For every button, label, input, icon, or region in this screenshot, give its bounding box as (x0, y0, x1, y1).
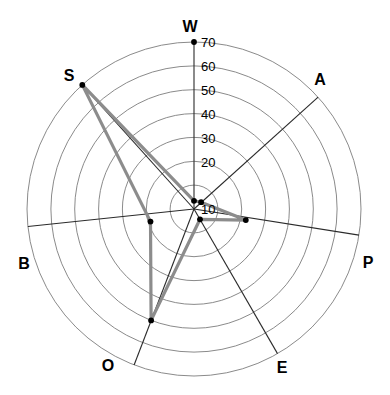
data-point-s (79, 82, 85, 88)
axis-spoke-e (194, 209, 278, 354)
axis-label-w: W (182, 18, 198, 35)
axis-spoke-p (194, 209, 359, 235)
data-point-w (191, 198, 197, 204)
tick-marker-70 (191, 39, 197, 45)
axis-label-p: P (363, 254, 374, 271)
axis-label-o: O (102, 357, 114, 374)
axis-label-s: S (64, 67, 75, 84)
tick-label-60: 60 (201, 59, 215, 74)
tick-label-30: 30 (201, 131, 215, 146)
axis-spoke-o (134, 209, 194, 365)
tick-label-70: 70 (201, 35, 215, 50)
tick-label-10: 10 (201, 202, 215, 217)
series-polygon-1 (82, 85, 246, 321)
tick-label-20: 20 (201, 155, 215, 170)
axis-spoke-b (28, 209, 194, 227)
tick-label-50: 50 (201, 83, 215, 98)
data-point-e (197, 216, 203, 222)
radial-tick-marks (191, 39, 197, 45)
axis-label-e: E (277, 359, 288, 376)
data-point-b (148, 219, 154, 225)
tick-label-40: 40 (201, 107, 215, 122)
radar-chart: 70 60 50 40 30 20 10 W A P E O B S (0, 0, 390, 395)
data-point-o (148, 318, 154, 324)
axis-label-a: A (314, 71, 326, 88)
axis-label-b: B (18, 255, 30, 272)
radar-chart-canvas: 70 60 50 40 30 20 10 W A P E O B S (0, 0, 390, 395)
data-point-p (243, 217, 249, 223)
